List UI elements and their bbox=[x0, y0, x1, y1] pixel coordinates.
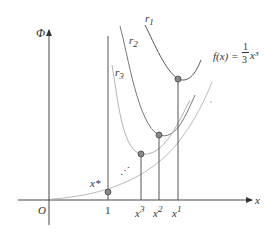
x-axis-label: x bbox=[255, 195, 260, 206]
function-denominator: 3 bbox=[242, 55, 247, 65]
ellipsis-mark: ⋰ bbox=[120, 166, 130, 176]
y-axis-label: Φ bbox=[36, 27, 45, 39]
stray-dot bbox=[210, 101, 212, 103]
point-label-x-star: x* bbox=[90, 178, 100, 189]
diagram-canvas: Φ x O r1 r2 r3 f(x) = 1 3 x³ 1 x3 x2 x1 … bbox=[0, 0, 274, 233]
point-x3 bbox=[138, 151, 144, 157]
curve-label-r1: r1 bbox=[145, 13, 154, 27]
function-lhs: f(x) = bbox=[213, 51, 238, 62]
tick-label-x2: x2 bbox=[153, 205, 162, 219]
point-x2 bbox=[156, 132, 162, 138]
tick-label-x3: x3 bbox=[135, 205, 144, 219]
tick-label-x1: x1 bbox=[172, 205, 181, 219]
point-x1 bbox=[175, 76, 181, 82]
curve-r1 bbox=[145, 25, 201, 80]
curve-label-r3: r3 bbox=[115, 67, 124, 81]
tick-label-1: 1 bbox=[105, 205, 111, 216]
function-rhs: x³ bbox=[250, 50, 258, 61]
curve-label-r2: r2 bbox=[129, 35, 138, 49]
point-x-star bbox=[105, 189, 111, 195]
function-numerator: 1 bbox=[242, 42, 249, 53]
cubic-curve bbox=[52, 82, 212, 199]
origin-label: O bbox=[38, 205, 46, 216]
